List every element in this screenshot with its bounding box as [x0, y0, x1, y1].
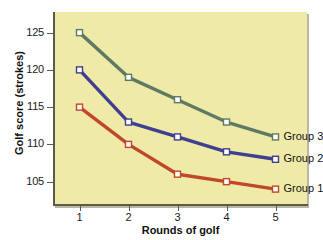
- y-axis-title: Golf score (strokes): [13, 18, 25, 188]
- data-point: [175, 97, 181, 103]
- series-label-group-1: Group 1: [284, 182, 323, 194]
- series-line-group-2: [80, 70, 276, 159]
- data-point: [126, 141, 132, 147]
- series-label-group-2: Group 2: [284, 152, 323, 164]
- data-point: [126, 119, 132, 125]
- data-point: [224, 149, 230, 155]
- data-point: [224, 179, 230, 185]
- data-point: [273, 134, 279, 140]
- series-label-group-3: Group 3: [284, 130, 323, 142]
- series-line-group-3: [80, 33, 276, 137]
- data-point: [77, 30, 83, 36]
- data-point: [77, 104, 83, 110]
- data-point: [77, 67, 83, 73]
- data-point: [273, 156, 279, 162]
- data-point: [224, 119, 230, 125]
- data-point: [175, 171, 181, 177]
- plot-series-layer: [0, 0, 323, 240]
- data-point: [175, 134, 181, 140]
- data-point: [126, 74, 132, 80]
- data-point: [273, 186, 279, 192]
- x-axis-title: Rounds of golf: [53, 224, 308, 236]
- chart-container: 105110115120125 12345 Group 3Group 2Grou…: [0, 0, 323, 240]
